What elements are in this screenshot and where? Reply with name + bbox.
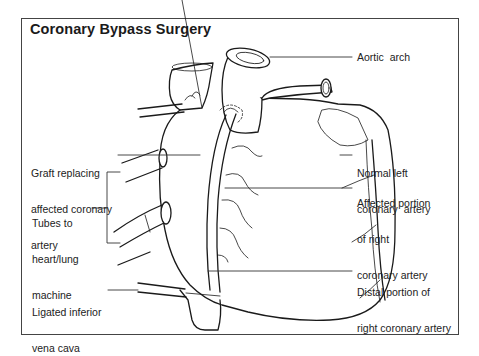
heart-lung-tubes bbox=[114, 149, 171, 265]
inferior-vena-cava bbox=[138, 283, 221, 330]
superior-vena-cava bbox=[169, 0, 213, 110]
left-atrial-appendage bbox=[318, 109, 368, 146]
label-ligated-ivc: Ligated inferior vena cava bbox=[32, 282, 101, 356]
label-affected-right-line1: Affected portion bbox=[357, 197, 430, 209]
label-ligated-line2: vena cava bbox=[32, 342, 101, 354]
label-tubes-line1: Tubes to bbox=[32, 217, 79, 229]
label-ligated-line1: Ligated inferior bbox=[32, 306, 101, 318]
label-distal-right: Distal portion of right coronary artery bbox=[357, 262, 451, 346]
bypass-graft bbox=[207, 105, 243, 292]
label-tubes-line2: heart/lung bbox=[32, 253, 79, 265]
right-coronary-branches bbox=[218, 146, 262, 262]
aorta bbox=[222, 45, 332, 134]
label-distal-right-line1: Distal portion of bbox=[357, 286, 451, 298]
label-aortic-arch: Aortic arch bbox=[357, 51, 410, 63]
label-graft-line1: Graft replacing bbox=[31, 167, 112, 179]
label-distal-right-line2: right coronary artery bbox=[357, 322, 451, 334]
label-affected-right-line2: of right bbox=[357, 233, 430, 245]
